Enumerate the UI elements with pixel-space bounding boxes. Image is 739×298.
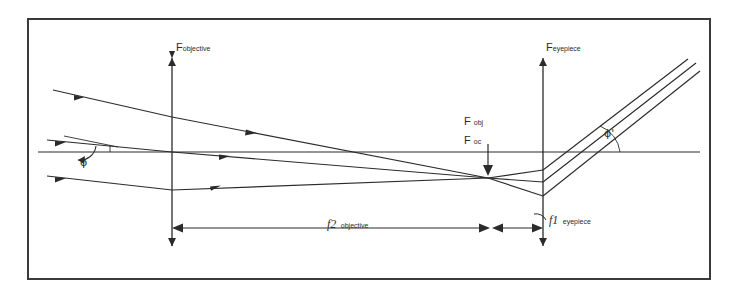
label-objective-symbol: F bbox=[176, 42, 183, 53]
diverging-ray-lower bbox=[488, 178, 543, 196]
incoming-ray-bot bbox=[47, 176, 172, 190]
incoming-ray-mid bbox=[47, 140, 172, 152]
label-dimension-objective: f2 objective bbox=[327, 215, 368, 231]
entrance-angle-marker bbox=[64, 136, 118, 164]
label-focal-obj-subscript: obj bbox=[474, 119, 483, 126]
outgoing-rays bbox=[543, 59, 700, 196]
diverging-ray-mid bbox=[488, 178, 543, 182]
label-eyepiece-symbol: F bbox=[546, 42, 553, 53]
label-objective-focal-plane: Fobjective bbox=[176, 42, 210, 53]
refracted-ray-bot bbox=[172, 178, 488, 190]
label-focal-obj-symbol: F bbox=[464, 116, 471, 127]
outgoing-ray-1 bbox=[543, 59, 688, 170]
refracted-ray-top bbox=[172, 117, 488, 178]
label-entrance-angle-phi: ϕ bbox=[80, 157, 87, 168]
diverging-ray-upper bbox=[488, 170, 543, 178]
label-focal-oc-subscript: oc bbox=[474, 138, 481, 145]
diverging-rays-to-eyepiece bbox=[488, 170, 543, 196]
figure-root: Fobjective Feyepiece F obj F oc ϕ ϕ' f2 … bbox=[0, 0, 739, 298]
label-exit-angle-phi-prime: ϕ' bbox=[604, 128, 614, 139]
incoming-ray-top bbox=[53, 90, 172, 117]
label-f1-subscript: 1 bbox=[552, 213, 558, 227]
optical-ray-diagram-canvas bbox=[0, 0, 739, 298]
label-dimension-eyepiece: f1 eyepiece bbox=[549, 211, 591, 227]
label-f2-name: objective bbox=[341, 222, 369, 229]
label-objective-subscript: objective bbox=[183, 45, 211, 52]
focal-point-pointer bbox=[483, 144, 493, 176]
label-f2-subscript: 2 bbox=[330, 217, 336, 231]
refracted-rays-objective bbox=[172, 117, 488, 190]
label-focal-oc-symbol: F bbox=[464, 135, 471, 146]
refracted-ray-arrowheads bbox=[210, 130, 257, 191]
label-eyepiece-subscript: eyepiece bbox=[553, 45, 581, 52]
outgoing-ray-2 bbox=[543, 63, 696, 182]
label-focal-point-objective: F obj bbox=[464, 116, 483, 127]
incoming-rays bbox=[47, 90, 172, 190]
label-eyepiece-focal-plane: Feyepiece bbox=[546, 42, 581, 53]
dimension-eyepiece-focal-length bbox=[492, 214, 546, 233]
label-focal-point-ocular: F oc bbox=[464, 135, 481, 146]
label-f1-name: eyepiece bbox=[563, 218, 591, 225]
outgoing-ray-3 bbox=[543, 71, 700, 196]
